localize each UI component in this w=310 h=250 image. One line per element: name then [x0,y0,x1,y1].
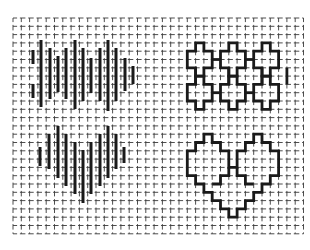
stitch-chart-diagram [0,0,310,250]
heart-stitches [40,126,124,203]
wave-band-stitches [33,40,133,111]
graph-paper-canvas [0,0,310,250]
